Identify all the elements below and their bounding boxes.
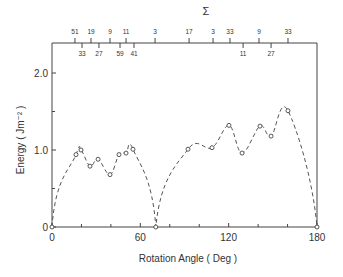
sigma-upper-label: 3 — [153, 28, 157, 35]
x-axis-label: Rotation Angle ( Deg ) — [139, 253, 237, 264]
x-tick-label: 180 — [309, 232, 326, 243]
data-point-marker — [269, 134, 273, 138]
sigma-lower-label: 27 — [267, 50, 275, 57]
data-point-marker — [117, 153, 121, 157]
sigma-lower-label: 59 — [116, 50, 124, 57]
sigma-upper-label: 11 — [123, 28, 130, 35]
data-point-marker — [74, 153, 78, 157]
sigma-upper-label: 9 — [257, 28, 261, 35]
x-axis-ticks: 060120180 — [49, 223, 326, 243]
data-point-marker — [108, 173, 112, 177]
x-tick-label: 0 — [49, 232, 55, 243]
data-point-marker — [210, 146, 214, 150]
data-point-marker — [124, 151, 128, 155]
data-point-marker — [186, 147, 190, 151]
sigma-lower-label: 41 — [130, 50, 138, 57]
data-point-marker — [227, 123, 231, 127]
sigma-upper-label: 3 — [211, 28, 215, 35]
sigma-lower-label: 33 — [78, 50, 86, 57]
x-tick-label: 120 — [220, 232, 237, 243]
data-point-marker — [88, 164, 92, 168]
data-point-marker — [154, 225, 158, 229]
data-point-marker — [79, 148, 83, 152]
data-point-marker — [240, 151, 244, 155]
x-tick-label: 60 — [135, 232, 147, 243]
data-point-marker — [50, 225, 54, 229]
y-tick-label: 0 — [42, 222, 48, 233]
sigma-upper-label: 19 — [87, 28, 95, 35]
y-axis-ticks: 01.02.0 — [34, 68, 56, 233]
plot-frame — [52, 43, 317, 227]
energy-vs-rotation-chart: 060120180 01.02.0 5119911317333933332759… — [0, 0, 343, 277]
sigma-lower-label: 27 — [95, 50, 103, 57]
y-tick-label: 2.0 — [34, 68, 48, 79]
data-point-marker — [131, 147, 135, 151]
data-point-marker — [258, 124, 262, 128]
sigma-lower-label: 11 — [240, 50, 247, 57]
data-point-markers — [50, 109, 319, 229]
sigma-axis-label: Σ — [203, 5, 210, 17]
data-point-marker — [315, 225, 319, 229]
sigma-upper-label: 33 — [226, 28, 234, 35]
data-point-marker — [286, 109, 290, 113]
sigma-upper-label: 51 — [71, 28, 79, 35]
sigma-upper-label: 17 — [185, 28, 193, 35]
sigma-upper-label: 33 — [284, 28, 292, 35]
sigma-upper-label: 9 — [108, 28, 112, 35]
y-tick-label: 1.0 — [34, 145, 48, 156]
data-point-marker — [96, 157, 100, 161]
y-axis-label: Energy ( Jm⁻² ) — [15, 106, 26, 175]
